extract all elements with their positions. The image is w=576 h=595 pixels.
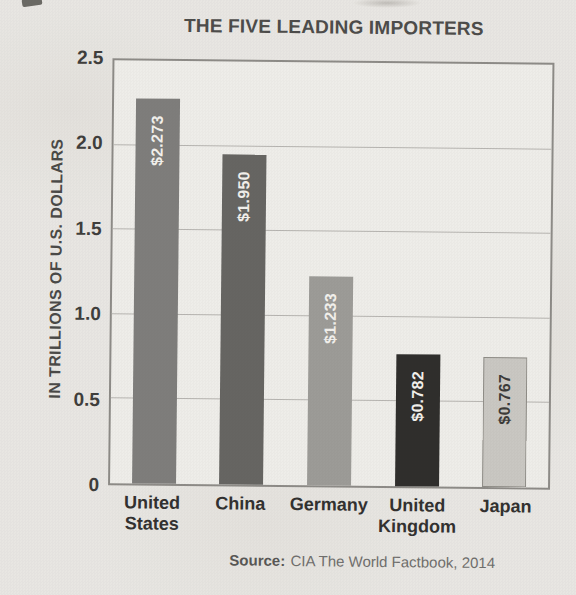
x-label-united-kingdom: United Kingdom [373,495,462,537]
bar-value-japan: $0.767 [496,374,515,425]
bar-value-germany: $1.233 [322,293,341,344]
source-text: CIA The World Factbook, 2014 [290,552,495,571]
x-label-germany: Germany [285,494,374,516]
y-tick-0.5: 0.5 [73,388,100,410]
y-tick-2.5: 2.5 [77,47,104,69]
x-axis-labels: United StatesChinaGermanyUnited KingdomJ… [107,492,549,543]
x-label-japan: Japan [461,496,550,518]
bar-value-china: $1.950 [235,171,254,222]
y-tick-1.5: 1.5 [75,218,102,240]
bar-germany: $1.233 [307,277,353,486]
bar-chart: THE FIVE LEADING IMPORTERS IN TRILLIONS … [0,0,576,595]
x-label-united-states: United States [108,492,197,534]
y-tick-0: 0 [88,474,99,496]
bar-value-united-kingdom: $0.782 [408,371,427,422]
bar-china: $1.950 [219,154,266,484]
chart-title: THE FIVE LEADING IMPORTERS [113,14,555,41]
bar-united-states: $2.273 [132,99,180,484]
y-axis-ticks: 2.52.01.51.00.50 [0,57,103,485]
y-tick-2.0: 2.0 [76,132,103,154]
bar-value-united-states: $2.273 [148,116,167,167]
source-label: Source: [229,551,285,569]
bar-united-kingdom: $0.782 [395,354,440,487]
plot-area: $2.273$1.950$1.233$0.782$0.767 [108,58,554,490]
y-tick-1.0: 1.0 [74,303,101,325]
scanned-book-page: THE FIVE LEADING IMPORTERS IN TRILLIONS … [0,0,576,595]
source-line: Source:CIA The World Factbook, 2014 [141,550,576,572]
x-label-china: China [196,493,285,515]
bar-japan: $0.767 [482,357,527,487]
